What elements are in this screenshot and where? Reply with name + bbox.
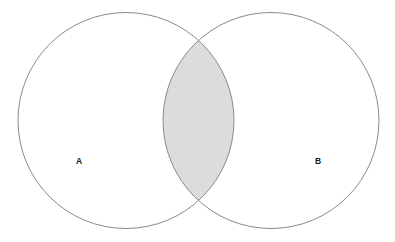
venn-diagram-figure: A B [0,0,395,242]
set-label-b: B [315,156,321,166]
set-label-a: A [76,156,82,166]
venn-diagram-canvas: A B [0,0,395,242]
